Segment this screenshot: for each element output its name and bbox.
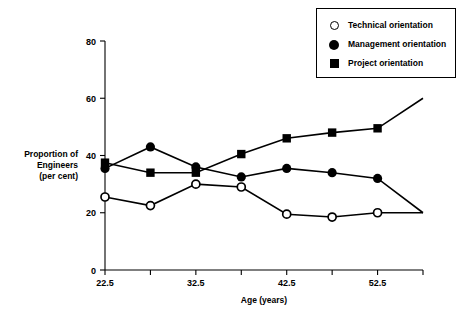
data-point-marker (101, 193, 109, 201)
legend-item-label: Project orientation (348, 59, 423, 68)
data-series-group (100, 98, 423, 221)
data-point-marker (283, 134, 291, 142)
data-point-marker (237, 172, 246, 181)
chart-legend: Technical orientation Management orienta… (316, 8, 456, 78)
filled-square-icon (327, 57, 341, 71)
x-axis-tick-label: 52.5 (369, 278, 387, 288)
y-axis-title-line: (per cent) (39, 171, 78, 181)
data-point-marker (373, 174, 382, 183)
x-axis-tick-label: 22.5 (96, 278, 114, 288)
x-axis-tick-label: 42.5 (278, 278, 296, 288)
x-axis-title: Age (years) (241, 295, 287, 305)
legend-item-label: Management orientation (348, 40, 446, 49)
data-point-marker (192, 168, 200, 176)
data-point-marker (237, 183, 245, 191)
y-axis-title-line: Proportion of (24, 149, 78, 159)
y-axis-tick-label: 80 (86, 37, 96, 47)
data-point-marker (146, 168, 154, 176)
y-axis-tick-label: 40 (86, 151, 96, 161)
data-point-marker (283, 210, 291, 218)
data-point-marker (282, 164, 291, 173)
data-point-marker (237, 150, 245, 158)
legend-item-project[interactable]: Project orientation (327, 54, 455, 73)
chart-container: 02040608022.532.542.552.5Age (years)Prop… (0, 0, 464, 324)
filled-circle-icon (327, 38, 341, 52)
legend-item-management[interactable]: Management orientation (327, 35, 455, 54)
open-circle-icon (327, 19, 341, 33)
data-point-marker (328, 213, 336, 221)
data-point-marker (328, 168, 337, 177)
data-point-marker (101, 158, 109, 166)
y-axis-tick-label: 0 (91, 266, 96, 276)
y-axis-tick-label: 60 (86, 94, 96, 104)
series-line-2 (105, 98, 423, 172)
y-axis-title-line: Engineers (37, 160, 78, 170)
x-axis-tick-label: 32.5 (187, 278, 205, 288)
data-point-marker (373, 124, 381, 132)
data-point-marker (328, 128, 336, 136)
y-axis-tick-label: 20 (86, 208, 96, 218)
data-point-marker (146, 202, 154, 210)
legend-item-technical[interactable]: Technical orientation (327, 16, 455, 35)
legend-item-label: Technical orientation (348, 21, 433, 30)
data-point-marker (192, 180, 200, 188)
data-point-marker (374, 209, 382, 217)
data-point-marker (146, 142, 155, 151)
